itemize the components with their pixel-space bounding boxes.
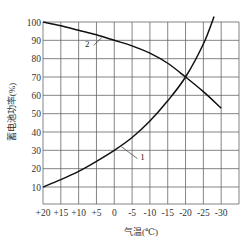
x-tick-label: -25 [197,208,210,218]
x-tick-label: +5 [91,208,101,218]
y-tick-label: 90 [32,36,42,46]
x-tick-label: -30 [215,208,228,218]
y-tick-label: 30 [32,146,42,156]
x-tick-label: -15 [161,208,174,218]
x-tick-label: +15 [53,208,68,218]
curve-series-1 [43,17,214,188]
x-tick-label: 0 [112,208,117,218]
y-tick-label: 70 [32,73,42,83]
y-axis-ticks: 100908070605040302010 [27,18,42,193]
x-tick-label: +10 [71,208,86,218]
x-tick-label: -10 [144,208,157,218]
y-tick-label: 100 [27,18,42,28]
y-tick-label: 80 [32,54,42,64]
y-tick-label: 50 [32,109,42,119]
y-axis-label: 蓄电池功率(%) [6,83,17,142]
curve-1-label: 1 [140,152,145,162]
y-tick-label: 60 [32,91,42,101]
curve-annotations: 12 [85,38,145,163]
x-tick-label: -5 [128,208,136,218]
y-tick-label: 20 [32,164,42,174]
curve-2-label: 2 [85,39,90,49]
x-tick-label: -20 [179,208,192,218]
x-axis-label: 气温(℃) [124,226,158,237]
y-tick-label: 40 [32,128,42,138]
y-tick-label: 10 [32,183,42,193]
x-tick-label: +20 [36,208,51,218]
x-axis-ticks: +20+15+10+50-5-10-15-20-25-30 [36,208,228,218]
line-chart: 100908070605040302010 +20+15+10+50-5-10-… [0,0,252,242]
